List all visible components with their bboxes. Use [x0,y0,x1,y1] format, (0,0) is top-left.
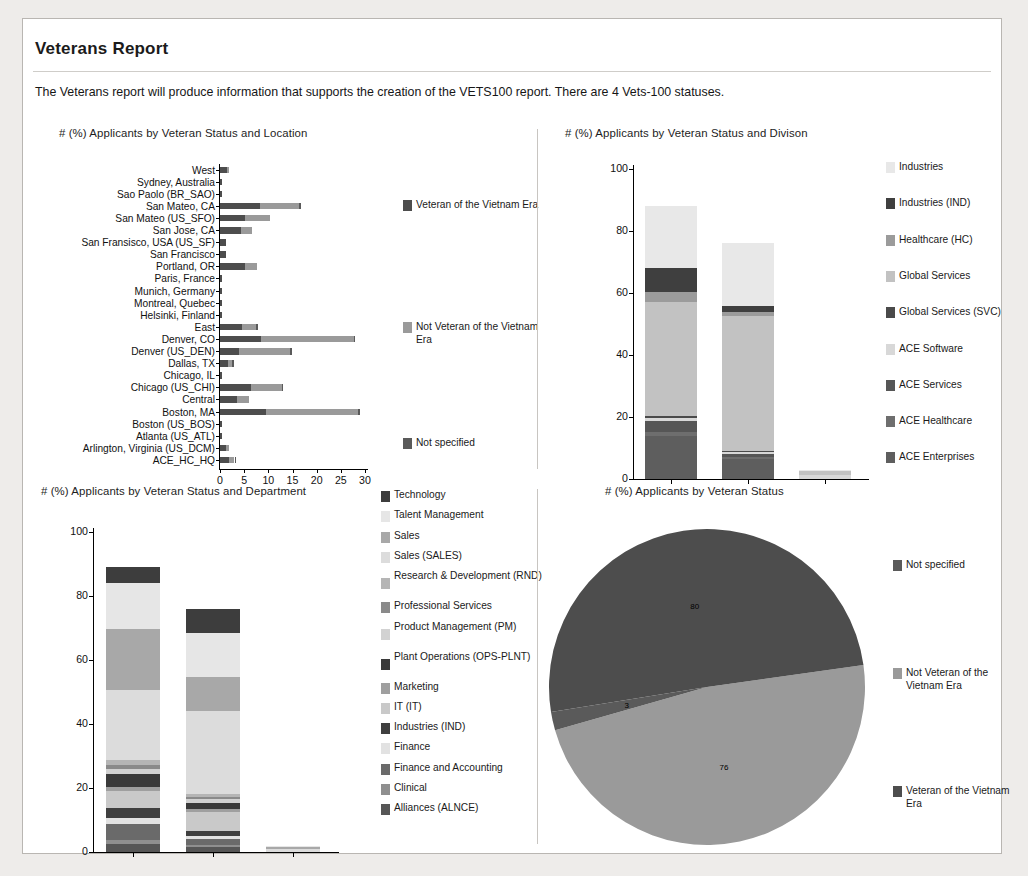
location-bar-segment[interactable] [220,288,222,295]
department-bar-segment[interactable] [106,629,160,690]
location-bar-segment[interactable] [227,167,229,174]
location-bar-segment[interactable] [220,251,226,258]
location-bar-segment[interactable] [256,324,257,331]
location-bar-segment[interactable] [242,324,257,331]
location-bar-segment[interactable] [220,336,261,343]
division-bar-segment[interactable] [645,416,697,418]
division-bar-segment[interactable] [722,306,774,312]
location-bar-segment[interactable] [299,203,301,210]
department-bar-segment[interactable] [186,609,240,633]
location-bar-segment[interactable] [358,409,359,416]
location-bar-segment[interactable] [290,348,291,355]
department-bar-segment[interactable] [186,794,240,798]
location-bar-segment[interactable] [220,191,222,198]
department-bar-segment[interactable] [266,847,320,849]
department-bar-segment[interactable] [106,808,160,818]
department-bar-segment[interactable] [186,803,240,809]
location-bar-segment[interactable] [220,409,266,416]
division-bar-segment[interactable] [645,432,697,436]
location-bar-segment[interactable] [251,384,281,391]
location-bar-segment[interactable] [220,275,222,282]
division-bar-segment[interactable] [722,312,774,316]
location-bar-segment[interactable] [220,372,222,379]
location-bar-segment[interactable] [232,360,233,367]
division-bar-segment[interactable] [645,418,697,421]
location-bar-segment[interactable] [220,348,239,355]
division-bar-segment[interactable] [799,470,851,471]
department-bar-segment[interactable] [186,847,240,852]
department-bar-segment[interactable] [186,633,240,677]
division-bar-segment[interactable] [722,457,774,459]
location-bar-segment[interactable] [235,457,236,464]
location-bar-segment[interactable] [220,203,260,210]
department-bar-segment[interactable] [106,844,160,852]
location-bar-segment[interactable] [220,324,242,331]
location-bar-segment[interactable] [220,300,222,307]
department-bar-segment[interactable] [106,567,160,583]
department-bar-segment[interactable] [106,791,160,808]
status-pie-plot[interactable]: 76380 [535,477,885,852]
department-bar-segment[interactable] [186,839,240,845]
department-bar-segment[interactable] [106,818,160,824]
department-bar-segment[interactable] [106,824,160,840]
location-bar-segment[interactable] [239,348,290,355]
department-bar-segment[interactable] [186,797,240,799]
division-bar-segment[interactable] [645,436,697,479]
department-bar-segment[interactable] [106,583,160,629]
division-chart-plot[interactable]: 020406080100 [535,119,875,474]
department-bar-segment[interactable] [106,769,160,774]
location-bar-segment[interactable] [220,263,245,270]
location-bar-segment[interactable] [220,384,251,391]
location-bar-segment[interactable] [282,384,283,391]
location-bar-segment[interactable] [226,445,229,452]
division-bar-segment[interactable] [645,206,697,267]
location-bar-segment[interactable] [220,396,237,403]
location-bar-segment[interactable] [245,263,258,270]
location-bar-segment[interactable] [220,239,226,246]
location-bar-segment[interactable] [260,203,300,210]
location-bar-segment[interactable] [245,215,270,222]
division-bar-segment[interactable] [645,302,697,417]
division-bar-segment[interactable] [722,459,774,479]
division-bar-segment[interactable] [722,316,774,451]
department-bar-segment[interactable] [186,799,240,803]
department-bar-segment[interactable] [186,812,240,831]
location-bar-segment[interactable] [220,433,222,440]
location-bar-segment[interactable] [220,312,222,319]
location-bar-segment[interactable] [220,215,245,222]
department-bar-segment[interactable] [266,846,320,847]
location-bar-segment[interactable] [354,336,355,343]
department-bar-segment[interactable] [186,711,240,794]
division-bar-segment[interactable] [645,292,697,301]
department-bar-segment[interactable] [106,690,160,760]
department-bar-segment[interactable] [186,677,240,711]
department-bar-segment[interactable] [106,760,160,765]
division-bar-segment[interactable] [645,268,697,293]
division-bar-segment[interactable] [722,243,774,305]
department-chart-plot[interactable]: 020406080100 [23,477,373,852]
department-bar-segment[interactable] [186,845,240,847]
location-bar-segment[interactable] [220,167,227,174]
department-bar-segment[interactable] [106,774,160,787]
department-bar-segment[interactable] [186,836,240,839]
location-bar-segment[interactable] [237,396,249,403]
location-bar-segment[interactable] [220,227,241,234]
location-bar-segment[interactable] [220,360,228,367]
division-bar-segment[interactable] [722,452,774,454]
division-bar-segment[interactable] [722,454,774,457]
department-bar-segment[interactable] [266,849,320,852]
department-bar-segment[interactable] [186,831,240,835]
department-bar-segment[interactable] [186,809,240,812]
division-bar-segment[interactable] [722,451,774,452]
department-bar-segment[interactable] [106,765,160,769]
division-bar-segment[interactable] [799,471,851,476]
location-bar-segment[interactable] [266,409,358,416]
division-bar-segment[interactable] [645,421,697,432]
location-bar-segment[interactable] [220,179,222,186]
department-bar-segment[interactable] [106,787,160,791]
location-bar-segment[interactable] [241,227,252,234]
location-bar-segment[interactable] [220,457,229,464]
department-bar-segment[interactable] [106,840,160,843]
location-bar-segment[interactable] [220,421,222,428]
location-bar-segment[interactable] [261,336,354,343]
